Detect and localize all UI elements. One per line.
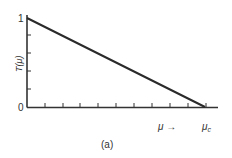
chart: 1 0 T(μ) μ → μc (a) — [0, 0, 232, 158]
x-end-label: μc — [201, 121, 211, 133]
x-ticks — [45, 103, 206, 107]
data-line-T — [27, 18, 205, 107]
y-axis-label: T(μ) — [14, 56, 24, 72]
y-tick-label-0: 0 — [18, 102, 24, 113]
caption: (a) — [101, 139, 113, 150]
x-axis-label: μ → — [157, 121, 176, 132]
y-tick-label-1: 1 — [18, 13, 24, 24]
